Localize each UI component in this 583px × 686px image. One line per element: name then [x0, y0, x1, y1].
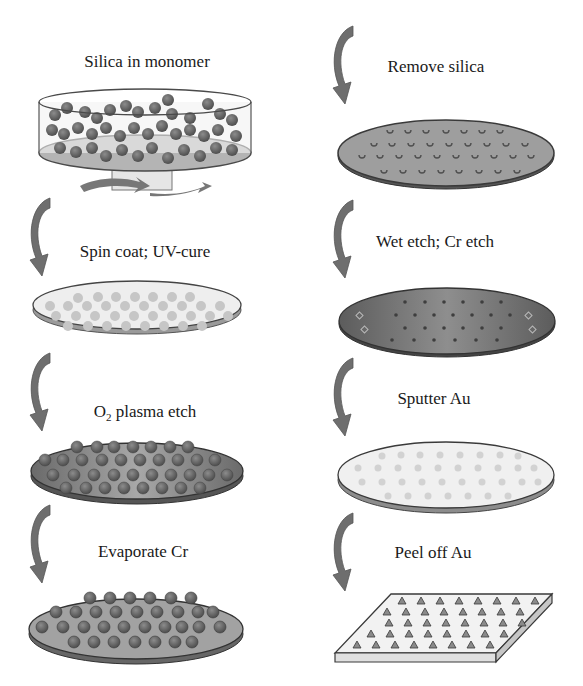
step-8-au-film-illustration: [335, 594, 552, 662]
step-3-wafer-illustration: [31, 441, 243, 504]
curved-down-arrow-icon: [333, 200, 353, 278]
step-7-wafer-illustration: [338, 442, 554, 513]
curved-down-arrow-icon: [333, 26, 353, 104]
curved-down-arrow-icon: [333, 358, 353, 436]
step-5-label: Remove silica: [388, 57, 485, 77]
step-1-dish-illustration: [39, 89, 251, 196]
process-diagram: [0, 0, 583, 686]
step-4-wafer-illustration: [29, 592, 243, 664]
step-6-wafer-illustration: [339, 288, 555, 357]
curved-down-arrow-icon: [30, 198, 50, 276]
step-1-label: Silica in monomer: [84, 52, 210, 72]
step-3-label: O2 plasma etch: [94, 402, 197, 423]
step-4-label: Evaporate Cr: [98, 542, 188, 562]
step-8-label: Peel off Au: [394, 543, 471, 563]
step-6-label: Wet etch; Cr etch: [376, 232, 494, 252]
curved-down-arrow-icon: [30, 505, 50, 583]
step-2-label: Spin coat; UV-cure: [80, 242, 211, 262]
curved-down-arrow-icon: [30, 353, 50, 431]
step-2-wafer-illustration: [33, 281, 241, 334]
step-7-label: Sputter Au: [397, 389, 470, 409]
curved-down-arrow-icon: [333, 513, 353, 591]
step-5-wafer-illustration: [338, 120, 554, 189]
